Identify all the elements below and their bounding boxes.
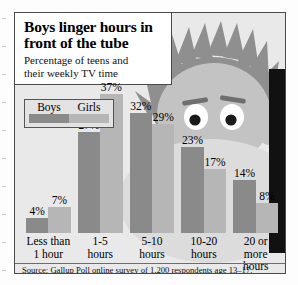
- bar-rect: [233, 180, 255, 233]
- bar-value-label: 37%: [101, 81, 122, 93]
- bar-group: 14%8%: [231, 65, 280, 233]
- bar-groups: 4%7%27%37%32%29%23%17%14%8%: [24, 65, 280, 233]
- bar-group: 4%7%: [24, 65, 73, 233]
- bar-group: 27%37%: [76, 65, 125, 233]
- bar-boys-3: 23%: [181, 65, 203, 233]
- bar-value-label: 7%: [52, 194, 67, 206]
- bar-rect: [26, 218, 48, 233]
- bar-value-label: 17%: [204, 156, 225, 168]
- bar-group: 32%29%: [128, 65, 177, 233]
- legend-swatch-boys: [29, 114, 69, 123]
- bar-rect: [48, 207, 70, 233]
- bar-value-label: 8%: [259, 190, 274, 202]
- legend-swatch-girls: [69, 114, 109, 123]
- bar-rect: [78, 132, 100, 233]
- bar-rect: [204, 169, 226, 233]
- source-note: Source: Gallup Poll online survey of 1,2…: [22, 265, 252, 274]
- bar-rect: [130, 113, 152, 233]
- margin-tick-marks: [2, 0, 8, 285]
- chart-panel: Boys linger hours in front of the tube P…: [14, 12, 286, 274]
- bar-boys-0: 4%: [26, 65, 48, 233]
- bar-girls-3: 17%: [204, 65, 226, 233]
- infographic-container: Boys linger hours in front of the tube P…: [0, 0, 298, 285]
- bar-rect: [152, 124, 174, 233]
- bar-boys-4: 14%: [233, 65, 255, 233]
- headline-line-2: front of the tube: [24, 35, 163, 51]
- source-divider: [15, 263, 286, 264]
- bar-group: 23%17%: [180, 65, 229, 233]
- bar-value-label: 29%: [153, 111, 174, 123]
- headline-line-1: Boys linger hours in: [24, 19, 163, 35]
- legend-label-boys: Boys: [29, 101, 69, 114]
- bar-girls-2: 29%: [152, 65, 174, 233]
- bar-value-label: 23%: [182, 134, 203, 146]
- bar-boys-2: 32%: [130, 65, 152, 233]
- page-title: Boys linger hours in front of the tube: [24, 19, 163, 51]
- bar-girls-1: 37%: [100, 65, 122, 233]
- legend-label-girls: Girls: [69, 101, 109, 114]
- bar-girls-0: 7%: [48, 65, 70, 233]
- bar-chart: 4%7%27%37%32%29%23%17%14%8%: [24, 65, 280, 233]
- bar-value-label: 4%: [29, 205, 44, 217]
- bar-value-label: 14%: [234, 167, 255, 179]
- bar-rect: [256, 203, 278, 233]
- chart-legend: Boys Girls: [24, 99, 114, 128]
- bar-girls-4: 8%: [256, 65, 278, 233]
- bar-value-label: 32%: [130, 100, 151, 112]
- bar-boys-1: 27%: [78, 65, 100, 233]
- bar-rect: [181, 147, 203, 233]
